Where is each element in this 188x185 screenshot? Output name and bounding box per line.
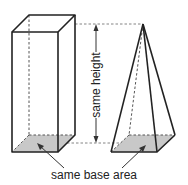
arrow-down-icon [94,136,99,143]
prism-front-face [12,32,58,152]
height-label: same height [89,52,103,118]
prism-right-face [58,15,75,152]
arrow-up-icon [94,24,99,31]
height-arrow: same height [89,24,103,143]
pyramid-left-slant-edge [111,24,143,152]
prism-top-face [12,15,75,32]
rectangular-prism [12,15,75,152]
base-label: same base area [51,168,137,182]
square-pyramid [111,24,175,152]
pyramid-right-slant-edge [143,24,175,135]
diagram-canvas: same height same base area [0,0,188,185]
pyramid-front-slant-edge [143,24,157,152]
pyramid-hidden-slant-edge [129,24,143,135]
